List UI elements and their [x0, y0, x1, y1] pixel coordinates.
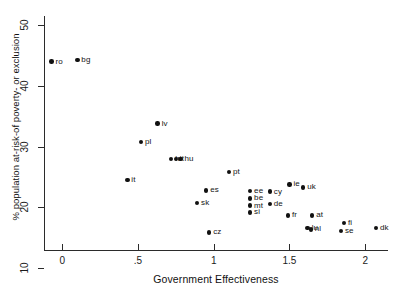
data-point — [248, 189, 252, 193]
data-point — [125, 178, 129, 182]
data-point — [169, 157, 173, 161]
data-point — [342, 221, 346, 225]
data-point-label: nl — [315, 225, 321, 233]
data-point-label: pl — [145, 138, 151, 146]
data-point — [139, 140, 143, 144]
x-tick-label: 0 — [47, 255, 77, 266]
data-point-label: de — [274, 200, 283, 208]
data-point — [268, 189, 272, 193]
data-point-label: si — [254, 208, 260, 216]
data-point — [287, 182, 291, 186]
data-point — [248, 196, 252, 200]
data-point-label: hu — [184, 155, 193, 163]
data-point-label: ie — [293, 180, 299, 188]
x-tick-label: 1 — [199, 255, 229, 266]
data-point-label: se — [345, 227, 354, 235]
data-point — [310, 213, 314, 217]
data-point-label: sk — [201, 199, 209, 207]
y-tick-label: 10 — [20, 257, 30, 279]
y-axis-title: % population at-risk-of poverty- or excl… — [10, 7, 21, 247]
plot-area: robglvplhrlthuitptesieukcyeebedemtsksifr… — [44, 16, 388, 250]
data-point — [75, 58, 79, 62]
data-point — [339, 229, 343, 233]
data-point — [204, 188, 208, 192]
y-tick-mark — [38, 268, 44, 269]
data-point — [374, 226, 378, 230]
data-point — [268, 202, 272, 206]
x-axis-title: Government Effectiveness — [44, 273, 388, 285]
data-point — [195, 201, 199, 205]
data-point-label: at — [316, 211, 323, 219]
data-point-label: ro — [56, 58, 63, 66]
data-point — [286, 213, 290, 217]
data-point — [207, 230, 211, 234]
x-tick-label: 2 — [350, 255, 380, 266]
x-tick-label: .5 — [123, 255, 153, 266]
data-point-label: pt — [233, 168, 240, 176]
data-point-label: fr — [292, 211, 297, 219]
x-axis-line — [44, 250, 388, 251]
data-point — [49, 59, 53, 63]
data-point — [178, 157, 182, 161]
data-point-label: dk — [380, 224, 389, 232]
scatter-plot-figure: 1020304050 0.511.52 robglvplhrlthuitptes… — [0, 0, 395, 300]
data-point-label: es — [210, 186, 219, 194]
data-point-label: bg — [81, 56, 90, 64]
data-point — [301, 185, 305, 189]
y-tick-label-wrapper: 10 — [8, 262, 36, 274]
data-point-label: it — [131, 176, 135, 184]
data-point — [227, 170, 231, 174]
y-axis-title-wrapper: % population at-risk-of poverty- or excl… — [10, 7, 24, 247]
data-point — [248, 210, 252, 214]
data-point — [248, 203, 252, 207]
data-point — [155, 121, 159, 125]
data-point-label: cz — [213, 228, 221, 236]
data-point-label: lv — [162, 120, 168, 128]
data-point-label: uk — [307, 183, 316, 191]
data-point — [309, 227, 313, 231]
data-point-label: cy — [274, 188, 282, 196]
x-tick-label: 1.5 — [274, 255, 304, 266]
